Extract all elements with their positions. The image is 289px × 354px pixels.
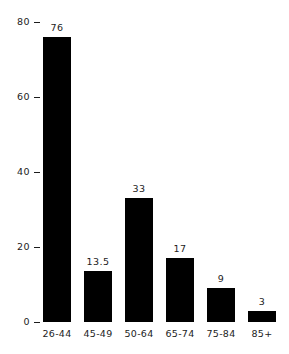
x-axis-category-label: 65-74 bbox=[165, 328, 194, 339]
bar-rect bbox=[125, 198, 153, 322]
bar-value-label: 13.5 bbox=[87, 256, 110, 267]
y-axis-tick-40: 40 bbox=[17, 166, 43, 178]
x-axis-category-label: 75-84 bbox=[206, 328, 235, 339]
y-axis-tick-dash-icon bbox=[34, 97, 40, 98]
x-axis-category-label: 45-49 bbox=[83, 328, 112, 339]
bar-value-label: 76 bbox=[51, 22, 64, 33]
y-axis-tick-label-80: 80 bbox=[17, 16, 30, 28]
bar-value-label: 33 bbox=[133, 183, 146, 194]
y-axis-tick-label-60: 60 bbox=[17, 91, 30, 103]
bar-rect bbox=[84, 271, 112, 322]
bar-rect bbox=[166, 258, 194, 322]
bar-value-label: 9 bbox=[218, 273, 224, 284]
plot-area: 76 26-44 13.5 45-49 33 50-64 17 65-74 9 … bbox=[43, 0, 289, 354]
bar-value-label: 3 bbox=[259, 296, 265, 307]
x-axis-category-label: 26-44 bbox=[42, 328, 71, 339]
y-axis-tick-dash-icon bbox=[34, 22, 40, 23]
y-axis-tick-label-20: 20 bbox=[17, 241, 30, 253]
y-axis-tick-label-0: 0 bbox=[24, 316, 30, 328]
y-axis-tick-20: 20 bbox=[17, 241, 43, 253]
y-axis-tick-0: 0 bbox=[24, 316, 43, 328]
y-axis-tick-80: 80 bbox=[17, 16, 43, 28]
y-axis-tick-60: 60 bbox=[17, 91, 43, 103]
bar-chart: 80 60 40 20 0 76 26-44 13.5 bbox=[0, 0, 289, 354]
y-axis-tick-dash-icon bbox=[34, 322, 40, 323]
bar-rect bbox=[248, 311, 276, 322]
y-axis: 80 60 40 20 0 bbox=[0, 0, 43, 354]
bar-value-label: 17 bbox=[174, 243, 187, 254]
y-axis-tick-dash-icon bbox=[34, 172, 40, 173]
x-axis-category-label: 50-64 bbox=[124, 328, 153, 339]
bar-rect bbox=[207, 288, 235, 322]
y-axis-tick-label-40: 40 bbox=[17, 166, 30, 178]
x-axis-category-label: 85+ bbox=[252, 328, 273, 339]
bar-rect bbox=[43, 37, 71, 322]
y-axis-tick-dash-icon bbox=[34, 247, 40, 248]
